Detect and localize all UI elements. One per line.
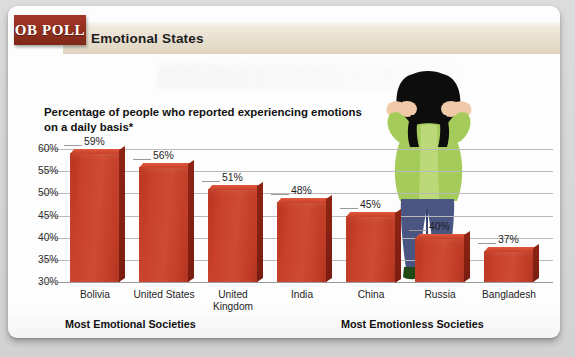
x-axis-category-label: United States bbox=[129, 289, 199, 301]
x-axis-category-label: Russia bbox=[405, 289, 475, 301]
publication-logo: OB POLL bbox=[14, 15, 86, 45]
bar-side-face bbox=[119, 147, 125, 282]
bar-value-label: 37% bbox=[498, 234, 519, 245]
bar-side-face bbox=[257, 182, 263, 282]
bar-top-face bbox=[70, 149, 124, 154]
bar-russia[interactable] bbox=[415, 238, 465, 282]
bar-top-face bbox=[277, 198, 331, 203]
bar-top-face bbox=[484, 247, 538, 252]
x-axis-category-label: China bbox=[336, 289, 406, 301]
bar-top-face bbox=[415, 234, 469, 239]
y-axis-tick-label: 40% bbox=[38, 232, 68, 243]
x-axis-category-label: Bolivia bbox=[60, 289, 130, 301]
bar-value-label: 45% bbox=[360, 199, 381, 210]
value-leader-line bbox=[271, 194, 289, 195]
bar-united-states[interactable] bbox=[139, 167, 189, 282]
bar-china[interactable] bbox=[346, 216, 396, 283]
bar-top-face bbox=[346, 212, 400, 217]
bar-side-face bbox=[188, 160, 194, 282]
value-leader-line bbox=[409, 230, 427, 231]
bar-value-label: 51% bbox=[222, 172, 243, 183]
group-label-left: Most Emotional Societies bbox=[65, 318, 196, 330]
y-axis-tick-label: 45% bbox=[38, 210, 68, 221]
bar-top-face bbox=[139, 163, 193, 168]
bar-side-face bbox=[464, 231, 470, 282]
bar-side-face bbox=[395, 209, 401, 282]
value-leader-line bbox=[133, 159, 151, 160]
bar-side-face bbox=[533, 244, 539, 282]
x-axis-category-label: United Kingdom bbox=[198, 289, 268, 313]
chart-subtitle: Percentage of people who reported experi… bbox=[44, 105, 374, 134]
bar-value-label: 56% bbox=[153, 150, 174, 161]
bar-india[interactable] bbox=[277, 202, 327, 282]
magazine-card: Emotional States Percentage of people wh… bbox=[8, 6, 560, 338]
y-axis-tick-label: 50% bbox=[38, 187, 68, 198]
bar-side-face bbox=[326, 195, 332, 282]
bar-bolivia[interactable] bbox=[70, 153, 120, 282]
x-axis-category-label: Bangladesh bbox=[474, 289, 544, 301]
x-axis-category-label: India bbox=[267, 289, 337, 301]
group-label-right: Most Emotionless Societies bbox=[341, 318, 484, 330]
value-leader-line bbox=[202, 181, 220, 182]
bar-value-label: 59% bbox=[84, 136, 105, 147]
bar-united-kingdom[interactable] bbox=[208, 189, 258, 282]
value-leader-line bbox=[478, 243, 496, 244]
axis-baseline bbox=[40, 282, 553, 283]
screenshot-root: Emotional States Percentage of people wh… bbox=[0, 0, 575, 357]
bar-top-face bbox=[208, 185, 262, 190]
y-axis-tick-label: 35% bbox=[38, 254, 68, 265]
bar-value-label: 48% bbox=[291, 185, 312, 196]
value-leader-line bbox=[64, 145, 82, 146]
page-title: Emotional States bbox=[91, 31, 204, 46]
value-leader-line bbox=[340, 208, 358, 209]
y-axis-tick-label: 55% bbox=[38, 165, 68, 176]
bar-bangladesh[interactable] bbox=[484, 251, 534, 282]
bar-value-label: 40% bbox=[429, 221, 450, 232]
logo-text: OB POLL bbox=[15, 22, 85, 39]
